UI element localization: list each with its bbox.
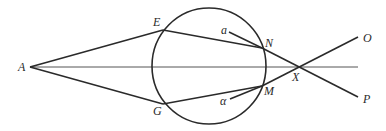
line-G-M — [163, 86, 262, 104]
line-A-G — [30, 67, 163, 104]
line-A-E — [30, 30, 163, 67]
label-M: M — [263, 84, 275, 98]
circle — [152, 8, 266, 124]
line-N-P — [262, 48, 358, 97]
line-M-O — [262, 37, 358, 86]
label-a: a — [221, 23, 227, 37]
label-G: G — [153, 104, 162, 118]
label-E: E — [152, 15, 161, 29]
label-O: O — [363, 31, 372, 45]
optics-diagram: A E G a N X M α O P — [0, 0, 386, 131]
label-P: P — [362, 92, 371, 106]
label-A: A — [17, 60, 26, 74]
label-alpha: α — [220, 94, 227, 108]
label-X: X — [291, 70, 300, 84]
label-N: N — [264, 36, 274, 50]
line-E-N — [163, 30, 262, 48]
